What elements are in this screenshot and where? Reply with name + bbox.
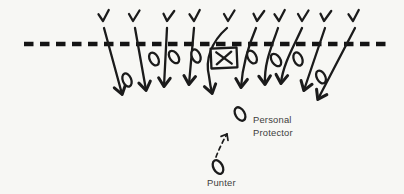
- punter-symbol: [211, 134, 227, 176]
- punt-play-diagram: Personal Protector Punter: [0, 0, 404, 194]
- personal-protector-label-line1: Personal: [253, 114, 292, 125]
- center-snapper-symbol: [211, 47, 238, 68]
- diagram-canvas: Personal Protector Punter: [0, 0, 404, 194]
- punter-label: Punter: [207, 177, 236, 188]
- personal-protector-label-line2: Protector: [253, 127, 293, 138]
- personal-protector-symbol: [232, 105, 247, 122]
- defenders-group: [98, 10, 359, 21]
